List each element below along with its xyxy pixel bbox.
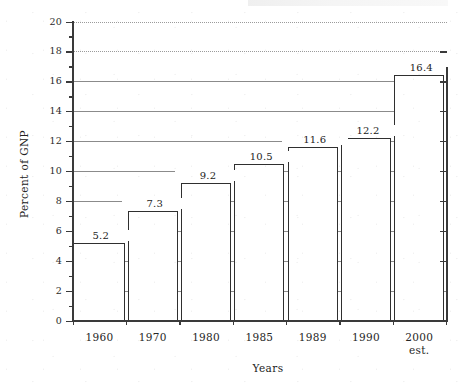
bar-value-label-1960: 5.2 xyxy=(67,230,135,241)
y-tick-minor xyxy=(69,246,73,247)
y-tick-minor xyxy=(69,156,73,157)
bar-value-label-1985: 10.5 xyxy=(228,151,294,162)
y-tick-minor xyxy=(69,36,73,37)
y-tick-major xyxy=(66,141,73,142)
gridline xyxy=(73,81,446,82)
y-tick-major xyxy=(66,51,73,52)
x-tick xyxy=(233,320,234,325)
y-tick-label-wrap: 8 xyxy=(40,195,62,205)
gridline xyxy=(73,22,447,23)
x-tick xyxy=(73,320,74,325)
bar-value-label-1980: 9.2 xyxy=(175,170,241,181)
y-tick-major xyxy=(66,201,73,202)
bar-1989 xyxy=(288,147,338,321)
y-tick-label-wrap: 16 xyxy=(40,75,62,85)
right-tick-major xyxy=(440,261,447,262)
right-axis-spine xyxy=(446,67,448,321)
y-tick-minor xyxy=(69,186,73,187)
y-tick-label: 12 xyxy=(40,135,62,146)
y-axis-title: Percent of GNP xyxy=(18,114,30,234)
y-tick-minor xyxy=(69,126,73,127)
y-tick-label: 14 xyxy=(40,105,62,116)
bar-1980 xyxy=(181,183,231,322)
y-tick-label-wrap: 18 xyxy=(40,45,62,55)
y-tick-label-wrap: 0 xyxy=(40,315,62,325)
y-tick-label: 0 xyxy=(40,315,62,326)
y-tick-label-wrap: 12 xyxy=(40,135,62,145)
bar-2000 xyxy=(394,75,444,321)
bar-1960 xyxy=(73,243,125,322)
right-tick-major xyxy=(440,81,447,82)
bar-value-label-2000: 16.4 xyxy=(388,62,454,73)
y-tick-label-wrap: 2 xyxy=(40,285,62,295)
y-tick-label: 20 xyxy=(40,16,62,27)
x-tick xyxy=(179,320,180,325)
y-tick-major xyxy=(66,231,73,232)
y-tick-label: 8 xyxy=(40,195,62,206)
y-tick-major xyxy=(66,291,73,292)
y-tick-label: 2 xyxy=(40,285,62,296)
gridline xyxy=(73,51,447,52)
x-axis-title: Years xyxy=(233,362,303,374)
y-tick-label: 18 xyxy=(40,45,62,56)
x-tick xyxy=(339,320,340,325)
y-tick-label-wrap: 20 xyxy=(40,16,62,26)
bar-1970 xyxy=(128,211,178,321)
y-tick-label: 16 xyxy=(40,75,62,86)
right-tick-major xyxy=(440,51,447,52)
y-tick-label-wrap: 6 xyxy=(40,225,62,235)
y-tick-label: 10 xyxy=(40,165,62,176)
y-tick-minor xyxy=(69,276,73,277)
x-tick xyxy=(126,320,127,325)
gridline xyxy=(73,111,446,112)
y-tick-minor xyxy=(69,216,73,217)
y-tick-label-wrap: 4 xyxy=(40,255,62,265)
right-tick-major xyxy=(440,141,447,142)
right-tick-major xyxy=(440,231,447,232)
bar-chart-figure: 5.27.39.210.511.612.216.4 02468101214161… xyxy=(0,0,461,383)
scan-artifact-top xyxy=(248,0,448,6)
y-tick-major xyxy=(66,171,73,172)
right-tick-major xyxy=(440,201,447,202)
x-tick xyxy=(393,320,394,325)
bar-1990 xyxy=(341,138,391,321)
y-tick-label-wrap: 10 xyxy=(40,165,62,175)
y-tick-minor xyxy=(69,66,73,67)
x-tick-label-2000: 2000est. xyxy=(384,331,454,356)
y-tick-minor xyxy=(69,96,73,97)
right-tick-major xyxy=(440,111,447,112)
y-tick-major xyxy=(66,111,73,112)
y-tick-label-wrap: 14 xyxy=(40,105,62,115)
bar-value-label-1970: 7.3 xyxy=(122,198,188,209)
y-tick-major xyxy=(66,22,73,23)
bar-1985 xyxy=(234,164,284,322)
x-tick xyxy=(446,320,447,325)
x-tick-sublabel: est. xyxy=(384,344,454,356)
y-tick-minor xyxy=(69,306,73,307)
y-tick-major xyxy=(66,261,73,262)
x-axis-spine xyxy=(72,320,448,322)
y-tick-label: 4 xyxy=(40,255,62,266)
right-tick-major xyxy=(440,171,447,172)
y-tick-label: 6 xyxy=(40,225,62,236)
bar-value-label-1990: 12.2 xyxy=(335,125,401,136)
x-tick xyxy=(286,320,287,325)
y-tick-major xyxy=(66,81,73,82)
